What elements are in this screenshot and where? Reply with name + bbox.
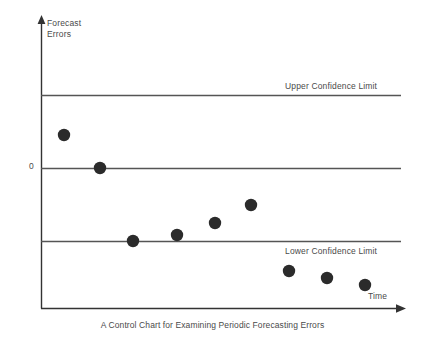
data-point (321, 272, 333, 284)
chart-caption: A Control Chart for Examining Periodic F… (0, 320, 425, 330)
y-axis-label-line2: Errors (47, 29, 71, 39)
chart-canvas (0, 0, 425, 341)
lower-confidence-limit-label: Lower Confidence Limit (285, 246, 377, 257)
y-axis-arrow-icon (38, 15, 46, 24)
data-point-group (58, 129, 371, 291)
data-point (283, 265, 295, 277)
data-point (58, 129, 70, 141)
y-axis-label-line1: Forecast (47, 18, 81, 28)
axis-group (38, 15, 406, 313)
x-axis-arrow-icon (396, 304, 406, 312)
x-axis-label: Time (368, 291, 387, 302)
y-axis-label: ForecastErrors (47, 18, 81, 40)
data-point (127, 235, 139, 247)
upper-confidence-limit-label: Upper Confidence Limit (285, 81, 377, 92)
data-point (209, 217, 221, 229)
data-point (94, 162, 106, 174)
y-axis-zero-tick-label: 0 (29, 161, 34, 172)
data-point (245, 199, 257, 211)
data-point (359, 279, 371, 291)
control-chart-figure: ForecastErrors 0 Time Upper Confidence L… (0, 0, 425, 341)
data-point (171, 229, 183, 241)
